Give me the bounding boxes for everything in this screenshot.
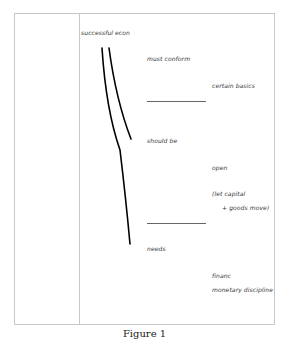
note-financ: financ (212, 272, 231, 279)
note-let-capital: (let capital (212, 190, 245, 197)
note-title: successful econ (81, 29, 130, 36)
separator-line (147, 223, 206, 224)
figure-caption: Figure 1 (0, 328, 289, 339)
separator-line (147, 101, 206, 102)
note-needs: needs (147, 245, 166, 252)
note-certain-basics: certain basics (212, 82, 255, 89)
note-must-conform: must conform (147, 55, 190, 62)
note-goods-move: + goods move) (222, 204, 269, 211)
note-should-be: should be (147, 137, 177, 144)
note-open: open (212, 164, 227, 171)
note-monetary-discipline: monetary discipline (212, 286, 273, 293)
